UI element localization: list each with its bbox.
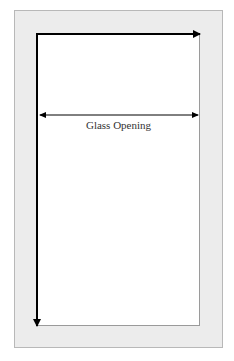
glass-opening-label: Glass Opening: [37, 119, 200, 131]
arrows-layer: [0, 0, 234, 361]
